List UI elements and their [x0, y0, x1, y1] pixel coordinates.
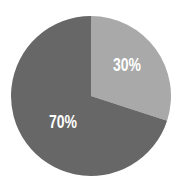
slice-label-30: 30%: [113, 54, 141, 75]
pie-chart: 30% 70%: [0, 0, 179, 189]
pie-slices: [11, 16, 171, 176]
slice-label-70: 70%: [49, 111, 77, 132]
